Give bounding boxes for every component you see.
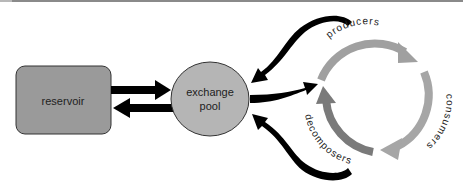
reservoir-to-pool-arrow (111, 80, 171, 100)
pool-to-reservoir-arrow (113, 98, 173, 118)
pool-to-cycle-arrow (250, 82, 318, 103)
cycle-diagram: reservoir exchange pool produc (0, 0, 463, 188)
producers-to-consumers-arc (321, 42, 418, 80)
exchange-pool-label-line2: pool (200, 100, 221, 112)
exchange-pool-label-line1: exchange (186, 86, 234, 98)
reservoir-label: reservoir (42, 95, 85, 107)
exchange-pool-node: exchange pool (171, 62, 249, 136)
consumers-to-decomposers-arc (380, 72, 429, 160)
reservoir-node: reservoir (16, 66, 111, 134)
